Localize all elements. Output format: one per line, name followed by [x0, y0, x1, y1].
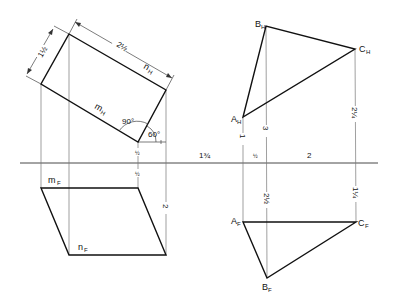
- angle-60-label: 60°: [148, 130, 160, 139]
- svg-text:n: n: [78, 242, 83, 252]
- svg-text:2½: 2½: [262, 193, 271, 204]
- label-n-h: n H: [142, 61, 156, 76]
- label-m-h: m H: [93, 101, 109, 117]
- dim-c-to-gl-front: 1¼: [351, 187, 360, 198]
- dim-a-to-gl: 1: [238, 134, 247, 139]
- angle-90-label: 90°: [122, 117, 134, 126]
- svg-text:C: C: [358, 218, 365, 228]
- label-n-f: n F: [78, 242, 88, 253]
- svg-text:F: F: [57, 180, 61, 186]
- svg-text:F: F: [84, 247, 88, 253]
- dim-half-below-gl: ½: [135, 171, 140, 177]
- point-c-f-label: C F: [358, 218, 369, 229]
- point-c-h-label: C H: [359, 44, 370, 55]
- svg-text:2¼: 2¼: [350, 107, 359, 118]
- svg-text:F: F: [268, 287, 272, 293]
- extension-line: [69, 19, 77, 34]
- svg-text:H: H: [237, 119, 241, 125]
- svg-text:m: m: [48, 175, 56, 185]
- projection-drawing: 90° 60° m H n H 2½ 1½ ½ ½ m F n F 2: [0, 0, 393, 306]
- svg-text:1¼: 1¼: [351, 187, 360, 198]
- svg-text:F: F: [237, 221, 241, 227]
- svg-text:3: 3: [261, 126, 270, 131]
- svg-text:2: 2: [161, 204, 170, 209]
- dim-c-to-gl-top: 2¼: [350, 107, 359, 118]
- label-m-f: m F: [48, 175, 61, 186]
- point-b-h-label: B H: [255, 19, 265, 30]
- svg-text:1: 1: [238, 134, 247, 139]
- point-a-f-label: A F: [231, 216, 241, 227]
- point-a-h-label: A H: [231, 114, 241, 125]
- dim-a-to-b: ½: [253, 153, 258, 159]
- extension-line: [54, 26, 69, 34]
- svg-text:C: C: [359, 44, 366, 54]
- dim-b-to-gl-front: 2½: [262, 193, 271, 204]
- dim-b-to-c: 2: [307, 151, 312, 160]
- parallelogram-front-view: [41, 188, 166, 255]
- point-b-f-label: B F: [262, 282, 272, 293]
- triangle-top-view: [243, 26, 355, 117]
- dim-left-offset: 1¾: [199, 151, 210, 160]
- dim-height-label: 2: [161, 204, 170, 209]
- extension-line: [26, 76, 41, 84]
- dim-b-to-gl-top: 3: [261, 126, 270, 131]
- svg-text:H: H: [366, 49, 370, 55]
- dim-half-above-gl: ½: [135, 150, 140, 156]
- projector-line-b: [266, 26, 267, 278]
- svg-text:H: H: [261, 24, 265, 30]
- svg-text:F: F: [365, 223, 369, 229]
- triangle-front-view: [243, 222, 356, 278]
